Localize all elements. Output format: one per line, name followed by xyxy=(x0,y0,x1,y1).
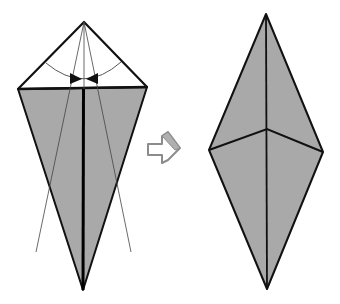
centre-line xyxy=(83,89,84,290)
origami-diagram xyxy=(0,0,340,304)
step-before xyxy=(18,22,147,290)
step-after xyxy=(209,14,323,289)
next-step-arrow-icon xyxy=(148,132,180,163)
diamond-centre-line xyxy=(266,14,267,289)
